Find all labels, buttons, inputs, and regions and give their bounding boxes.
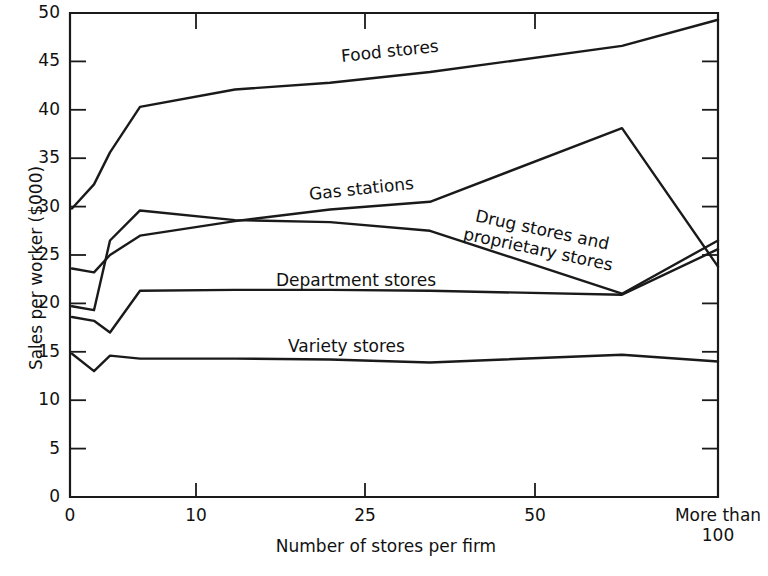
series-label: Department stores [276, 270, 436, 290]
x-tick-label: 0 [10, 505, 130, 525]
chart-series-lines [72, 20, 718, 371]
x-tick-label: 50 [475, 505, 595, 525]
y-axis-title: Sales per worker ($000) [26, 128, 46, 408]
y-tick-label: 50 [14, 2, 60, 22]
series-line-3 [72, 249, 718, 332]
x-tick-label: More than100 [658, 505, 768, 545]
chart-tick-marks [70, 13, 718, 497]
series-line-4 [72, 354, 718, 371]
x-tick-label: 25 [305, 505, 425, 525]
x-axis-title: Number of stores per firm [186, 536, 586, 556]
chart-frame [70, 13, 718, 497]
series-line-1 [72, 128, 718, 272]
y-tick-label: 45 [14, 50, 60, 70]
y-tick-label: 5 [14, 438, 60, 458]
chart-container: 05101520253035404550 0102550More than100… [0, 0, 768, 576]
y-tick-label: 0 [14, 486, 60, 506]
chart-axes [70, 13, 718, 497]
x-tick-label: 10 [136, 505, 256, 525]
series-label: Variety stores [288, 336, 405, 356]
y-tick-label: 40 [14, 99, 60, 119]
